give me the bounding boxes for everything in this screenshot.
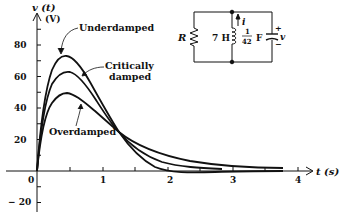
x-tick-label: 0	[28, 175, 34, 185]
critically-damped-curve	[37, 72, 222, 171]
chart-canvas: v (t) (V) t (s) 80 60 40 20 − 20 0 1 2 3…	[0, 0, 343, 214]
resistor-label: R	[177, 32, 186, 43]
capacitance-unit: F	[256, 33, 263, 43]
rlc-circuit	[190, 10, 278, 64]
y-ticks	[37, 29, 41, 202]
voltage-label: v	[280, 32, 286, 42]
capacitance-denominator: 42	[242, 37, 252, 46]
y-tick-label: − 20	[8, 197, 31, 207]
annotation-arrows	[58, 28, 104, 126]
critically-arrow-icon	[83, 67, 104, 75]
y-tick-label: 60	[14, 72, 27, 82]
axes	[6, 13, 313, 212]
x-axis-label: t (s)	[316, 166, 339, 177]
x-tick-label: 3	[230, 175, 236, 185]
y-tick-label: 80	[14, 40, 27, 50]
y-axis-unit: (V)	[45, 14, 61, 24]
critically-damped-label-1: Critically	[105, 60, 154, 71]
current-arrow-icon	[236, 14, 240, 19]
x-tick-label: 4	[295, 175, 301, 185]
underdamped-label: Underdamped	[79, 22, 154, 33]
overdamped-label: Overdamped	[49, 126, 116, 137]
critically-damped-label-2: damped	[109, 71, 152, 82]
curves	[37, 56, 283, 173]
x-tick-label: 2	[167, 175, 173, 185]
inductor-label: 7 H	[212, 33, 230, 43]
current-label: i	[242, 17, 246, 27]
resistor-icon	[190, 28, 198, 46]
x-tick-label: 1	[100, 175, 106, 185]
y-tick-label: 20	[14, 135, 27, 145]
y-axis-label: v (t)	[32, 2, 56, 13]
capacitance-numerator: 1	[245, 27, 250, 36]
inductor-icon	[232, 28, 236, 46]
y-tick-label: 40	[14, 103, 27, 113]
